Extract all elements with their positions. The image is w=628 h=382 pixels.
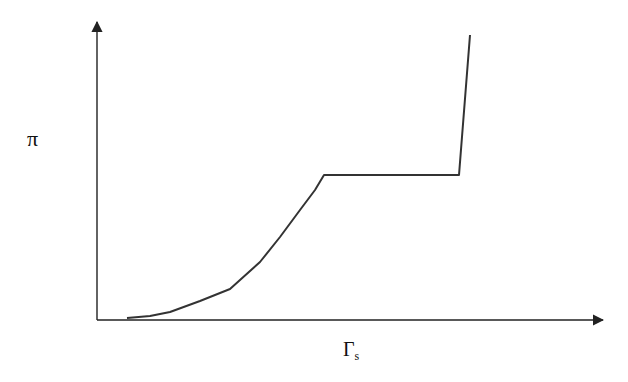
- y-axis-label: π: [27, 126, 38, 152]
- x-axis-label: Γs: [343, 338, 359, 364]
- isotherm-curve: [127, 35, 470, 318]
- x-axis-label-main: Γ: [343, 338, 355, 360]
- x-axis-label-subscript: s: [355, 349, 360, 363]
- chart-plot: [0, 0, 628, 382]
